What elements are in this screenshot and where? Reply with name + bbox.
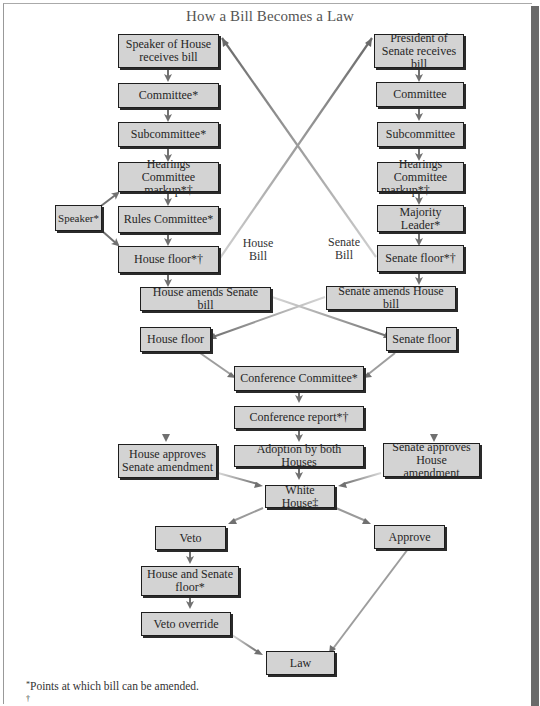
box-senate-amends-house-bill: Senate amends House bill: [326, 286, 456, 310]
box-house-subcommittee: Subcommittee*: [118, 122, 219, 147]
box-senate-floor: Senate floor*†: [377, 245, 464, 272]
box-conference-committee: Conference Committee*: [234, 366, 364, 391]
box-house-rules-committee: Rules Committee*: [118, 206, 219, 233]
box-majority-leader: Majority Leader*: [377, 205, 464, 232]
box-house-senate-floor: House and Senate floor*: [141, 566, 239, 596]
footnote-amended: *Points at which bill can be amended.: [26, 680, 199, 692]
box-house-approves-senate-amendment: House approves Senate amendment: [118, 444, 217, 478]
box-veto: Veto: [155, 526, 226, 550]
box-senate-approves-house-amendment: Senate approves House amendment: [383, 443, 480, 477]
box-amend-house-floor: House floor: [140, 327, 211, 352]
box-white-house: White House‡: [265, 485, 335, 508]
box-house-amends-senate-bill: House amends Senate bill: [140, 287, 271, 311]
label-house-bill: HouseBill: [240, 237, 276, 263]
box-senate-hearings: Hearings Committeemarkup*†: [377, 162, 464, 192]
box-approve: Approve: [374, 525, 445, 549]
box-senate-committee: Committee: [376, 82, 464, 107]
box-speaker-receives-bill: Speaker of House receives bill: [118, 34, 219, 68]
box-adoption-both-houses: Adoption by both Houses: [234, 445, 364, 467]
box-veto-override: Veto override: [141, 612, 231, 636]
box-senate-subcommittee: Subcommittee: [377, 122, 464, 147]
box-president-receives-bill: President of Senate receives bill: [374, 34, 464, 68]
box-speaker-side: Speaker*: [55, 205, 102, 231]
footnote-dagger: †: [26, 694, 30, 706]
box-conference-report: Conference report*†: [234, 406, 364, 429]
box-amend-senate-floor: Senate floor: [386, 327, 457, 351]
box-law: Law: [266, 651, 335, 675]
box-house-hearings: Hearings Committeemarkup*†: [118, 162, 219, 192]
label-senate-bill: SenateBill: [324, 236, 364, 262]
box-house-floor: House floor*†: [118, 246, 219, 273]
box-house-committee: Committee*: [118, 83, 219, 108]
